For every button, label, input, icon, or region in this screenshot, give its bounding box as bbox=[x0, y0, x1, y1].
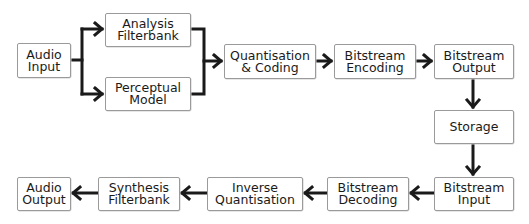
node-bitstream-encoding: Bitstream Encoding bbox=[334, 44, 416, 79]
node-bitstream-decoding: Bitstream Decoding bbox=[327, 177, 409, 211]
node-label: Perceptual Model bbox=[115, 82, 181, 106]
node-quantisation-coding: Quantisation & Coding bbox=[224, 44, 316, 79]
node-analysis-filterbank: Analysis Filterbank bbox=[105, 13, 191, 47]
node-audio-output: Audio Output bbox=[17, 177, 71, 211]
node-label: Quantisation & Coding bbox=[230, 50, 310, 74]
node-inverse-quantisation: Inverse Quantisation bbox=[207, 177, 303, 211]
node-synthesis-filterbank: Synthesis Filterbank bbox=[98, 177, 180, 211]
node-label: Synthesis Filterbank bbox=[108, 182, 170, 206]
diagram-canvas: Audio Input Analysis Filterbank Perceptu… bbox=[0, 0, 529, 224]
node-label: Bitstream Encoding bbox=[345, 50, 406, 74]
node-label: Bitstream Output bbox=[444, 50, 505, 74]
node-label: Analysis Filterbank bbox=[117, 18, 179, 42]
node-label: Inverse Quantisation bbox=[215, 182, 295, 206]
node-audio-input: Audio Input bbox=[17, 43, 71, 78]
node-label: Audio Output bbox=[22, 182, 65, 206]
node-bitstream-output: Bitstream Output bbox=[434, 44, 514, 79]
node-perceptual-model: Perceptual Model bbox=[105, 77, 191, 111]
node-label: Bitstream Decoding bbox=[338, 182, 399, 206]
node-label: Bitstream Input bbox=[444, 182, 505, 206]
node-label: Audio Input bbox=[26, 49, 62, 73]
node-bitstream-input: Bitstream Input bbox=[434, 177, 514, 211]
node-storage: Storage bbox=[434, 110, 514, 144]
node-label: Storage bbox=[450, 121, 499, 133]
